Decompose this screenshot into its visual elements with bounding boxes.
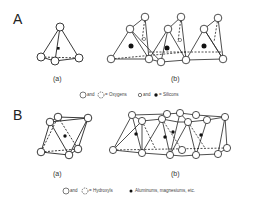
legend-b-aluminums: Aluminums, magnesiums, etc. bbox=[135, 188, 195, 193]
silicate-structure-diagram bbox=[0, 0, 254, 204]
tetrahedron-single bbox=[37, 23, 83, 65]
legend-a-oxygens: = Oxygens bbox=[105, 92, 127, 97]
legend-a-silicon-and: and bbox=[143, 92, 151, 97]
legend-b-hydroxyl-and: and bbox=[70, 188, 78, 193]
legend-a-silicons: = Silicons bbox=[159, 92, 178, 97]
octahedra-sheet bbox=[109, 109, 230, 158]
octahedron-single bbox=[37, 113, 92, 159]
tetrahedra-chain bbox=[107, 13, 227, 66]
legend-b-hydroxyls: = Hydroxyls bbox=[89, 188, 113, 193]
legend-a-oxygen-and: and bbox=[87, 92, 95, 97]
